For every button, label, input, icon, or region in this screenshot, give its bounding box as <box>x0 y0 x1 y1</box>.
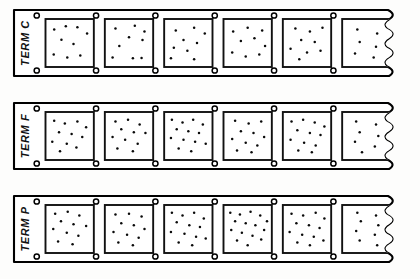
cell-dot <box>81 136 84 139</box>
cell-dot <box>132 57 135 60</box>
cell-dot <box>118 45 121 48</box>
cell-dot <box>85 126 88 129</box>
cell-dot <box>191 244 194 247</box>
mounting-hole-bottom <box>153 161 158 166</box>
cell-dot <box>76 26 79 29</box>
cell-dot <box>263 136 266 139</box>
cell-dot <box>244 141 247 144</box>
mounting-hole-top <box>93 199 98 204</box>
mounting-hole-top <box>34 106 39 111</box>
cell-dot <box>252 132 255 135</box>
cell-dot <box>170 231 173 234</box>
cell-dot <box>175 29 178 32</box>
cell-dot <box>358 131 361 134</box>
cell-dot <box>321 26 324 29</box>
cell-dot <box>261 29 264 32</box>
mounting-hole-bottom <box>93 254 98 259</box>
cell-dot <box>199 226 202 229</box>
cell-dot <box>303 141 306 144</box>
mounting-hole-top <box>34 13 39 18</box>
cell-dot <box>231 51 234 54</box>
cell-dot <box>375 123 378 126</box>
cell-dot <box>75 146 78 149</box>
mounting-hole-bottom <box>271 161 276 166</box>
strip-term-f: TERM F <box>14 103 401 169</box>
cell-dot <box>358 41 361 44</box>
mounting-hole-bottom <box>34 68 39 73</box>
cell-dot <box>319 49 322 52</box>
strip-label-term-f: TERM F <box>19 114 31 159</box>
cell <box>224 205 272 253</box>
mounting-hole-top <box>271 199 276 204</box>
cell-dot <box>190 150 193 153</box>
cell-dot <box>375 46 378 49</box>
cell-dot <box>240 130 243 133</box>
cell-dot <box>239 213 242 216</box>
cell-dot <box>306 51 309 54</box>
mounting-hole-top <box>153 13 158 18</box>
cell-dot <box>313 121 316 124</box>
cell-dot <box>59 150 62 153</box>
cell-dot <box>234 119 237 122</box>
cell-dot <box>177 241 180 244</box>
strip-label-term-p: TERM P <box>19 206 31 251</box>
mounting-hole-bottom <box>271 68 276 73</box>
cell-dot <box>204 142 207 145</box>
cell-dot <box>356 211 359 214</box>
cell-dot <box>232 30 235 33</box>
mounting-hole-bottom <box>331 161 336 166</box>
cell <box>283 205 331 253</box>
cell-dot <box>196 42 199 45</box>
cell-dot <box>314 211 317 214</box>
cell-dot <box>58 131 61 134</box>
cell-dot <box>289 48 292 51</box>
cell-dot <box>308 224 311 227</box>
cell-dot <box>266 220 269 223</box>
cell-dot <box>289 139 292 142</box>
terminal-cell <box>46 19 94 67</box>
mounting-hole-top <box>93 13 98 18</box>
mounting-hole-bottom <box>34 254 39 259</box>
cell-dot <box>323 125 326 128</box>
cell-dot <box>187 130 190 133</box>
cell-dot <box>354 141 357 144</box>
cell-dot <box>301 234 304 237</box>
cell <box>46 112 94 160</box>
cell-dot <box>263 229 266 232</box>
cell-dot <box>181 121 184 124</box>
cell-dot <box>296 241 299 244</box>
cell <box>164 205 212 253</box>
cell-dot <box>137 236 140 239</box>
cell-dot <box>86 32 89 35</box>
cell-dot <box>298 58 301 61</box>
cell-dot <box>290 212 293 215</box>
terminal-cell <box>342 205 400 253</box>
mounting-hole-top <box>331 106 336 111</box>
cell-dot <box>85 225 88 228</box>
cell-dot <box>128 36 131 39</box>
cell-dot <box>311 151 314 154</box>
cell-dot <box>195 235 198 238</box>
cell-dot <box>202 123 205 126</box>
cell-dot <box>193 211 196 214</box>
cell-dot <box>177 147 180 150</box>
cell-dot <box>355 230 358 233</box>
mounting-hole-bottom <box>153 254 158 259</box>
strip-term-c: TERM C <box>14 10 401 76</box>
cell-dot <box>132 244 135 247</box>
cell-dot <box>127 118 130 121</box>
cell-dot <box>229 211 232 214</box>
cell <box>224 112 272 160</box>
cell-dot <box>65 25 68 28</box>
cell-dot <box>112 231 115 234</box>
cell-dot <box>116 147 119 150</box>
cell-dot <box>241 232 244 235</box>
cell-dot <box>297 149 300 152</box>
cell-dot <box>309 244 312 247</box>
cell-dot <box>240 40 243 43</box>
cell-dot <box>246 244 249 247</box>
cell-dot <box>372 56 375 59</box>
cell-dot <box>66 232 69 235</box>
mounting-hole-bottom <box>153 68 158 73</box>
mounting-hole-top <box>153 106 158 111</box>
